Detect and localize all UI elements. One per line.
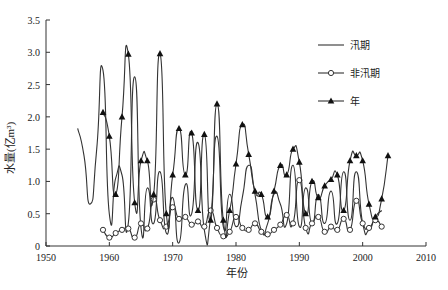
series-line: [103, 45, 388, 237]
circle-marker: [157, 218, 162, 223]
legend: 汛期非汛期年: [318, 40, 380, 107]
circle-marker: [107, 235, 112, 240]
x-tick-label: 1970: [163, 252, 183, 263]
circle-marker: [227, 229, 232, 234]
circle-marker: [100, 227, 105, 232]
circle-marker: [113, 230, 118, 235]
triangle-marker: [271, 188, 278, 194]
circle-marker: [360, 221, 365, 226]
triangle-marker: [106, 133, 113, 139]
triangle-marker: [220, 217, 227, 223]
circle-marker: [309, 221, 314, 226]
legend-item: 年: [318, 95, 360, 107]
y-tick-label: 0: [35, 241, 40, 252]
triangle-marker: [214, 100, 221, 106]
triangle-marker: [131, 199, 138, 205]
x-tick-label: 2000: [353, 252, 373, 263]
legend-label: 汛期: [350, 40, 370, 51]
legend-item: 非汛期: [318, 68, 380, 79]
triangle-marker: [176, 125, 183, 131]
triangle-marker: [169, 171, 176, 177]
triangle-marker: [233, 160, 240, 166]
triangle-marker: [207, 217, 214, 223]
triangle-marker: [125, 51, 132, 57]
circle-marker: [119, 227, 124, 232]
circle-marker: [170, 205, 175, 210]
circle-marker: [202, 224, 207, 229]
circle-marker: [354, 198, 359, 203]
triangle-marker: [385, 152, 392, 158]
y-tick-label: 0.5: [28, 209, 41, 220]
circle-marker: [328, 224, 333, 229]
triangle-marker: [195, 207, 202, 213]
circle-marker: [347, 227, 352, 232]
circle-marker-icon: [328, 70, 333, 75]
y-tick-label: 2.5: [28, 80, 41, 91]
plot-area: [78, 45, 392, 245]
circle-marker: [195, 219, 200, 224]
circle-marker: [189, 222, 194, 227]
y-tick-label: 1.5: [28, 144, 41, 155]
triangle-marker: [334, 171, 341, 177]
circle-marker: [379, 224, 384, 229]
triangle-marker: [359, 157, 366, 163]
circle-marker: [126, 226, 131, 231]
triangle-marker: [252, 188, 259, 194]
y-tick-label: 2.0: [28, 112, 41, 123]
x-tick-label: 1950: [36, 252, 56, 263]
legend-label: 非汛期: [350, 68, 380, 79]
legend-label: 年: [350, 95, 360, 107]
circle-marker: [138, 221, 143, 226]
circle-marker: [214, 225, 219, 230]
circle-marker: [183, 214, 188, 219]
circle-marker: [145, 226, 150, 231]
y-tick-label: 3.5: [28, 15, 41, 26]
circle-marker: [366, 225, 371, 230]
circle-marker: [278, 222, 283, 227]
circle-marker: [132, 235, 137, 240]
triangle-marker: [201, 131, 208, 137]
circle-marker: [322, 229, 327, 234]
circle-marker: [265, 232, 270, 237]
circle-marker: [284, 212, 289, 217]
circle-marker: [316, 214, 321, 219]
x-axis-label: 年份: [226, 266, 248, 279]
circle-marker: [259, 229, 264, 234]
x-tick-label: 1990: [289, 252, 309, 263]
y-tick-label: 1.0: [28, 176, 41, 187]
triangle-marker: [296, 158, 303, 164]
triangle-marker: [182, 171, 189, 177]
circle-marker: [176, 216, 181, 221]
circle-marker: [290, 221, 295, 226]
circle-marker: [341, 216, 346, 221]
triangle-marker: [150, 191, 157, 197]
water-volume-chart: 00.51.01.52.02.53.03.5195019601970198019…: [0, 0, 448, 290]
circle-marker: [233, 214, 238, 219]
circle-marker: [246, 227, 251, 232]
triangle-marker: [245, 151, 252, 157]
triangle-marker: [366, 200, 373, 206]
triangle-marker: [119, 113, 126, 119]
y-axis-label: 水量(亿m³): [4, 122, 17, 175]
x-tick-label: 1960: [99, 252, 119, 263]
triangle-marker: [378, 195, 385, 201]
x-tick-label: 1980: [226, 252, 246, 263]
circle-marker: [271, 227, 276, 232]
x-tick-label: 2010: [416, 252, 436, 263]
triangle-marker: [157, 50, 164, 56]
circle-marker: [240, 225, 245, 230]
circle-marker: [335, 227, 340, 232]
triangle-marker: [144, 157, 151, 163]
legend-item: 汛期: [318, 40, 370, 51]
triangle-marker: [347, 157, 354, 163]
circle-marker: [252, 221, 257, 226]
circle-marker: [303, 225, 308, 230]
y-tick-label: 3.0: [28, 47, 41, 58]
